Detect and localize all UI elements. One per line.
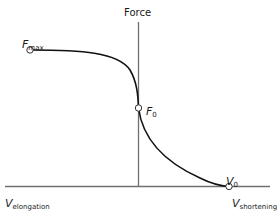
fmax-label: Fmax xyxy=(22,33,44,52)
shortening-label: Vshortening xyxy=(232,192,277,211)
elongation-curve xyxy=(31,50,139,108)
shortening-curve xyxy=(139,108,230,187)
f0-marker xyxy=(135,105,141,111)
f0-label: F0 xyxy=(146,100,157,119)
force-axis-label: Force xyxy=(124,7,151,18)
v0-label: V0 xyxy=(226,170,238,189)
elongation-label: Velongation xyxy=(5,192,50,211)
